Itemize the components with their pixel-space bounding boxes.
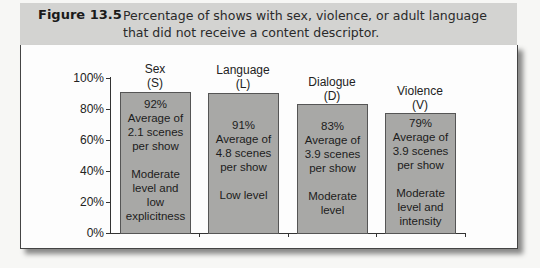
category-label-violence: Violence (V) <box>375 84 465 112</box>
bar-violence: 79% Average of 3.9 scenes per show Moder… <box>385 113 456 234</box>
figure-label: Figure 13.5 <box>38 7 122 22</box>
category-name: Sex <box>110 62 200 76</box>
category-label-dialogue: Dialogue (D) <box>287 75 377 103</box>
bar-level: level and <box>121 181 190 195</box>
bar-average: 3.9 scenes <box>386 144 455 158</box>
bar-average: per show <box>386 158 455 172</box>
x-tick <box>199 233 200 237</box>
bar-average: 2.1 scenes <box>121 125 190 139</box>
bar-level: level and <box>386 200 455 214</box>
y-tick <box>106 140 110 141</box>
figure-caption: Figure 13.5 Percentage of shows with sex… <box>20 3 517 45</box>
bar-level: level <box>298 203 367 217</box>
bar-average: Average of <box>121 111 190 125</box>
y-tick <box>106 233 110 234</box>
bar-average: 3.9 scenes <box>298 147 367 161</box>
bar-level: Low level <box>209 188 278 202</box>
category-code: (V) <box>375 98 465 112</box>
bar-level: Moderate <box>121 167 190 181</box>
y-axis <box>110 77 111 234</box>
x-tick <box>465 233 466 237</box>
figure-caption-text: Percentage of shows with sex, violence, … <box>123 7 513 41</box>
bar-percent: 83% <box>298 119 367 133</box>
category-label-sex: Sex (S) <box>110 62 200 90</box>
bar-average: per show <box>121 139 190 153</box>
bar-average: per show <box>298 161 367 175</box>
bar-level: Moderate <box>386 186 455 200</box>
category-name: Language <box>198 63 288 77</box>
y-tick-label: 80% <box>60 102 104 116</box>
bar-average: Average of <box>298 133 367 147</box>
y-tick-label: 20% <box>60 195 104 209</box>
category-label-language: Language (L) <box>198 63 288 91</box>
bar-percent: 91% <box>209 118 278 132</box>
bar-level: Moderate <box>298 189 367 203</box>
bar-language: 91% Average of 4.8 scenes per show Low l… <box>208 93 279 234</box>
bar-average: Average of <box>209 132 278 146</box>
bar-average: Average of <box>386 130 455 144</box>
x-tick <box>288 233 289 237</box>
x-tick <box>376 233 377 237</box>
category-name: Dialogue <box>287 75 377 89</box>
bar-dialogue: 83% Average of 3.9 scenes per show Moder… <box>297 104 368 234</box>
bar-level: explicitness <box>121 209 190 223</box>
bar-average: per show <box>209 160 278 174</box>
category-code: (S) <box>110 76 200 90</box>
bar-percent: 79% <box>386 116 455 130</box>
y-tick <box>106 202 110 203</box>
bar-level: low <box>121 195 190 209</box>
y-tick-label: 40% <box>60 164 104 178</box>
y-tick-label: 60% <box>60 133 104 147</box>
bar-average: 4.8 scenes <box>209 146 278 160</box>
category-code: (D) <box>287 89 377 103</box>
bar-sex: 92% Average of 2.1 scenes per show Moder… <box>120 92 191 234</box>
category-code: (L) <box>198 77 288 91</box>
y-tick-label: 100% <box>60 71 104 85</box>
category-name: Violence <box>375 84 465 98</box>
y-tick <box>106 171 110 172</box>
bar-percent: 92% <box>121 97 190 111</box>
y-tick-label: 0% <box>60 226 104 240</box>
y-tick <box>106 109 110 110</box>
bar-level: intensity <box>386 214 455 228</box>
